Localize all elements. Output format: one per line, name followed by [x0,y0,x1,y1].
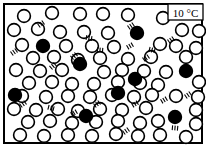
solvent-particle [98,66,111,79]
solvent-particle [145,51,158,64]
solvent-particle [48,51,61,64]
solvent-particle [30,104,43,117]
solvent-particle [170,90,183,103]
particle-diagram-figure: 10 °C [0,0,206,147]
solvent-particle [86,40,99,53]
solvent-particle [122,9,135,22]
solvent-particle [23,77,36,90]
solvent-particle [74,8,87,21]
solvent-particle [18,10,31,23]
solvent-particle [180,131,193,144]
solvent-particle [16,39,29,52]
solvent-particle [134,117,147,130]
solvent-particle [94,52,107,65]
solvent-particle [46,76,59,89]
solvent-particle [180,51,193,64]
solvent-particle [66,78,79,91]
solute-particle [131,27,144,40]
solvent-particle [192,91,205,104]
solvent-particle [66,117,79,130]
solvent-particle [102,27,115,40]
solvent-particle [128,91,141,104]
solvent-particle [193,25,206,38]
solvent-particle [27,52,40,65]
solvent-particle [46,7,59,20]
solute-particle [37,40,50,53]
solvent-particle [152,115,165,128]
solute-particle [129,73,142,86]
solvent-particle [8,24,21,37]
solute-particle [80,110,93,123]
solvent-particle [112,115,125,128]
solute-particle [9,89,22,102]
solvent-particle [84,91,97,104]
solvent-particle [44,115,57,128]
solvent-particle [56,64,69,77]
solvent-particle [34,65,47,78]
solvent-particle [132,130,145,143]
solute-particle [112,87,125,100]
solvent-particle [22,116,35,129]
solvent-particle [86,130,99,143]
solvent-particle [140,102,153,115]
solvent-particle [108,41,121,54]
solvent-particle [78,26,91,39]
solvent-particle [190,104,203,117]
solvent-particle [176,24,189,37]
solvent-particle [38,130,51,143]
solute-particle [74,58,87,71]
solute-particle [169,111,182,124]
solvent-particle [97,8,110,21]
solvent-particle [88,78,101,91]
solvent-particle [8,103,21,116]
solvent-particle [160,66,173,79]
solvent-particle [54,26,67,39]
solvent-particle [62,90,75,103]
solvent-particle [154,129,167,142]
solvent-particle [193,76,206,89]
solvent-particle [116,64,129,77]
solvent-particle [60,40,73,53]
solvent-particle [110,128,123,141]
solute-particle [180,65,193,78]
temperature-label: 10 °C [168,4,203,20]
temperature-label-text: 10 °C [173,7,199,19]
solvent-particle [62,129,75,142]
particle-scene: 10 °C [0,0,206,147]
solvent-particle [190,118,203,131]
solvent-particle [146,89,159,102]
solvent-particle [40,91,53,104]
solvent-particle [10,64,23,77]
solvent-particle [14,129,27,142]
